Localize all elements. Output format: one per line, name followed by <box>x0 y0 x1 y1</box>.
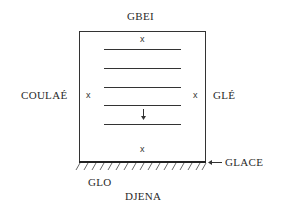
arrow-left-icon <box>208 160 222 165</box>
arrow-down-icon <box>141 109 146 120</box>
label-ground-arrow: GLACE <box>225 156 263 168</box>
marker-right: x <box>193 90 198 100</box>
marker-top: x <box>140 34 145 44</box>
label-bottom-left: GLO <box>88 176 112 188</box>
label-top: GBEI <box>127 10 154 22</box>
label-bottom: DJENA <box>125 190 161 202</box>
room-box <box>80 32 206 162</box>
marker-left: x <box>86 90 91 100</box>
stack-lines <box>104 50 181 125</box>
label-left: COULAÉ <box>21 89 67 101</box>
marker-bottom: x <box>140 144 145 154</box>
ground-hatching <box>76 163 206 170</box>
diagram-canvas <box>0 0 281 212</box>
label-right: GLÉ <box>213 89 235 101</box>
